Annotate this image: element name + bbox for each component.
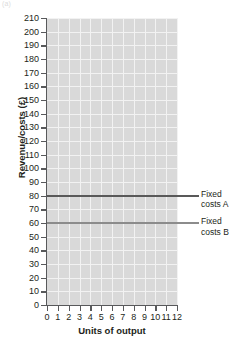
legend-label-line2: costs A [201,199,228,210]
y-axis-tick-label: 210 [24,13,39,23]
legend-label-line1: Fixed [201,216,229,227]
series-line-2 [47,222,177,224]
x-axis-tick-label: 0 [44,312,49,322]
x-axis-tick [134,306,135,311]
x-axis-tick [69,306,70,311]
x-axis-tick [80,306,81,311]
gridline-vertical [166,18,167,305]
y-axis-tick [41,305,46,306]
gridline-vertical [80,18,81,305]
y-axis-tick-label: 0 [34,300,39,310]
x-axis-tick-label: 11 [161,312,170,322]
y-axis-tick-label: 190 [24,40,39,50]
y-axis-tick [41,127,46,128]
legend-leader-line-1 [177,195,199,197]
y-axis-tick [41,223,46,224]
x-axis-tick [145,306,146,311]
y-axis-tick-label: 170 [24,68,39,78]
x-axis-tick-label: 9 [142,312,147,322]
gridline-vertical [112,18,113,305]
y-axis-tick [41,250,46,251]
x-axis-tick-label: 7 [120,312,125,322]
x-axis-tick-label: 12 [172,312,182,322]
x-axis-title: Units of output [47,325,177,336]
x-axis-tick-label: 3 [77,312,82,322]
y-axis-tick-label: 10 [29,286,39,296]
y-axis-tick [41,114,46,115]
series-line-1 [47,195,177,197]
y-axis-tick-label: 30 [29,259,39,269]
y-axis-tick [41,100,46,101]
gridline-vertical [177,18,178,305]
x-axis-tick [47,306,48,311]
x-axis-tick [112,306,113,311]
gridline-vertical [123,18,124,305]
y-axis-tick [41,291,46,292]
figure-label: (a) [2,0,11,7]
x-axis-tick-label: 8 [131,312,136,322]
x-axis-tick [90,306,91,311]
y-axis-tick-label: 60 [29,218,39,228]
y-axis-tick-label: 70 [29,204,39,214]
gridline-vertical [155,18,156,305]
vertical-gridlines [47,18,177,305]
legend-label-line1: Fixed [201,189,228,200]
x-axis-tick-label: 10 [150,312,160,322]
y-axis-labels: 0102030405060708090100110120130140150160… [0,12,39,312]
y-axis-tick [41,32,46,33]
y-axis-tick [41,209,46,210]
y-axis-tick [41,264,46,265]
x-axis-tick-label: 1 [55,312,60,322]
gridline-vertical [90,18,91,305]
y-axis-tick [41,141,46,142]
y-axis-tick [41,18,46,19]
y-axis-tick-label: 50 [29,232,39,242]
y-axis-tick-label: 90 [29,177,39,187]
y-axis-tick [41,278,46,279]
x-axis-tick-label: 2 [66,312,71,322]
y-axis-tick [41,73,46,74]
gridline-vertical [101,18,102,305]
y-axis-tick-label: 110 [25,150,39,160]
x-axis-tick [155,306,156,311]
y-axis-tick [41,155,46,156]
x-axis-tick [123,306,124,311]
gridline-vertical [58,18,59,305]
legend-label-1: Fixedcosts A [201,189,228,210]
x-axis-tick [101,306,102,311]
x-axis-tick [58,306,59,311]
y-axis-tick [41,196,46,197]
y-axis-tick [41,182,46,183]
x-axis-tick [166,306,167,311]
x-axis-tick-label: 6 [109,312,114,322]
gridline-vertical [145,18,146,305]
y-axis-tick [41,237,46,238]
y-axis-tick [41,86,46,87]
y-axis-tick [41,168,46,169]
chart-container: Revenue/costs (£) 0102030405060708090100… [0,12,252,347]
y-axis-tick-label: 180 [24,54,39,64]
legend-label-2: Fixedcosts B [201,216,229,237]
x-axis-tick-label: 5 [99,312,104,322]
y-axis-tick-label: 200 [24,27,39,37]
y-axis-tick-label: 80 [29,191,39,201]
y-axis-tick-label: 100 [24,163,39,173]
y-axis-tick-label: 140 [24,109,39,119]
y-axis-tick-label: 130 [24,122,39,132]
x-axis-tick [177,306,178,311]
y-axis-tick-label: 20 [29,273,39,283]
y-axis-tick-label: 40 [29,245,39,255]
y-axis-tick-label: 150 [24,95,39,105]
legend-label-line2: costs B [201,227,229,238]
y-axis-tick [41,59,46,60]
x-axis-tick-label: 4 [88,312,93,322]
y-axis-tick [41,45,46,46]
gridline-vertical [134,18,135,305]
legend-leader-line-2 [177,222,199,224]
y-axis-tick-label: 120 [24,136,39,146]
gridline-vertical [69,18,70,305]
plot-area [47,18,177,305]
y-axis-line [46,18,47,306]
header-strip: (a) [0,0,252,12]
y-axis-tick-label: 160 [24,81,39,91]
